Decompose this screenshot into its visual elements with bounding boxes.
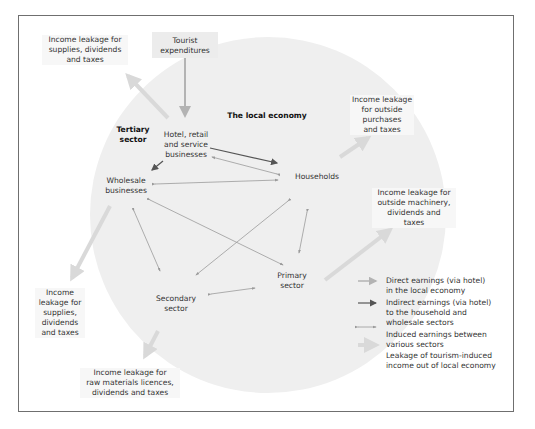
- legend-leakage-label: Leakage of tourism-induced income out of…: [386, 351, 516, 371]
- leakage-label-wholesale: Income leakage for supplies, dividends a…: [35, 288, 85, 338]
- leakage-label-hotel: Income leakage for supplies, dividends a…: [42, 35, 128, 65]
- wholesale-node: Wholesale businesses: [100, 176, 152, 196]
- legend-induced-label: Induced earnings between various sectors: [386, 330, 506, 350]
- local-economy-title: The local economy: [222, 111, 312, 121]
- leakage-label-primary: Income leakage for outside machinery, di…: [372, 188, 456, 228]
- legend-indirect-label: Indirect earnings (via hotel) to the hou…: [386, 298, 506, 328]
- households-node: Households: [288, 172, 346, 182]
- legend-direct-label: Direct earnings (via hotel) in the local…: [386, 276, 506, 296]
- hotel-node: Hotel, retail and service businesses: [158, 130, 214, 160]
- secondary-sector-node: Secondary sector: [150, 294, 202, 314]
- leakage-label-households: Income leakage for outside purchases and…: [350, 95, 414, 135]
- tertiary-sector-label: Tertiary sector: [113, 125, 153, 145]
- leakage-label-secondary: Income leakage for raw materials licence…: [80, 368, 180, 398]
- primary-sector-node: Primary sector: [270, 271, 314, 291]
- tourist-expenditures-box: Tourist expenditures: [152, 32, 218, 58]
